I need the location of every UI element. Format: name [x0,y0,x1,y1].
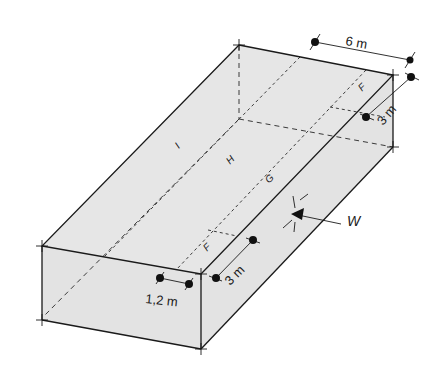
building-diagram: 6 m 3 m 3 m 1,2 m F F G H I [0,0,445,378]
wind-label: W [347,213,362,229]
dim-label-6m: 6 m [344,33,368,52]
